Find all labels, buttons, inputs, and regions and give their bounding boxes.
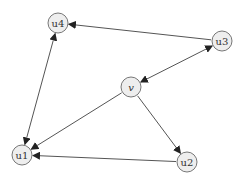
- edge-u3-u4: [69, 24, 211, 40]
- node-u4: u4: [48, 13, 68, 33]
- graph-canvas: u4u3vu1u2: [0, 0, 244, 179]
- edge-u2-u1: [33, 155, 176, 161]
- node-label: u2: [181, 157, 194, 168]
- edge-layer: [25, 24, 212, 161]
- edge-u4-u1: [25, 34, 55, 145]
- node-v: v: [121, 77, 141, 97]
- node-label: u3: [216, 36, 229, 47]
- node-u3: u3: [212, 31, 232, 51]
- edge-v-u3: [141, 46, 212, 82]
- node-label: u1: [16, 150, 29, 161]
- node-label: u4: [52, 18, 65, 29]
- edge-v-u1: [31, 93, 121, 149]
- node-u1: u1: [12, 145, 32, 165]
- node-label: v: [128, 82, 134, 93]
- node-u2: u2: [177, 152, 197, 172]
- edge-v-u2: [138, 96, 181, 153]
- node-layer: u4u3vu1u2: [12, 13, 232, 172]
